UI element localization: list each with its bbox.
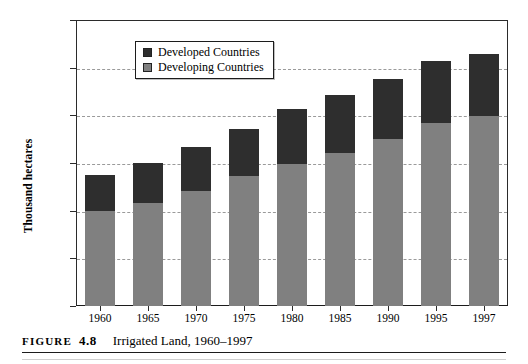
bar-segment-developing <box>229 176 259 306</box>
figure-caption: FIGURE 4.8 Irrigated Land, 1960–1997 <box>22 333 506 349</box>
legend-label-developed: Developed Countries <box>158 45 260 60</box>
bar-group <box>181 147 211 306</box>
bar-group <box>325 95 355 306</box>
x-tick-mark <box>292 306 293 311</box>
bar-group <box>469 54 499 306</box>
bar-segment-developed <box>181 147 211 191</box>
bar-segment-developed <box>373 79 403 139</box>
legend-item-developing: Developing Countries <box>143 60 264 75</box>
bar-group <box>277 109 307 306</box>
bar-segment-developed <box>133 163 163 203</box>
caption-title: Irrigated Land, 1960–1997 <box>113 333 253 349</box>
caption-rule-secondary <box>22 359 506 360</box>
bar-group <box>85 175 115 306</box>
bar-group <box>373 79 403 306</box>
legend-swatch-developing <box>143 63 152 72</box>
caption-rule <box>22 352 506 353</box>
legend-label-developing: Developing Countries <box>158 60 264 75</box>
legend-item-developed: Developed Countries <box>143 45 264 60</box>
bar-segment-developed <box>277 109 307 164</box>
x-tick-mark <box>340 306 341 311</box>
chart-legend: Developed Countries Developing Countries <box>135 41 274 79</box>
y-axis-title: Thousand hectares <box>22 96 34 276</box>
bar-group <box>229 129 259 306</box>
bar-segment-developed <box>469 54 499 116</box>
bar-segment-developed <box>421 61 451 123</box>
bar-segment-developing <box>325 153 355 306</box>
y-tick-mark <box>70 306 76 307</box>
x-tick-mark <box>388 306 389 311</box>
bar-segment-developing <box>277 164 307 306</box>
bar-segment-developed <box>325 95 355 153</box>
x-tick-mark <box>148 306 149 311</box>
x-tick-mark <box>436 306 437 311</box>
x-tick-mark <box>244 306 245 311</box>
x-tick-label: 1997 <box>454 312 514 324</box>
bar-segment-developed <box>85 175 115 210</box>
bar-segment-developing <box>181 191 211 306</box>
bar-group <box>421 61 451 306</box>
x-tick-mark <box>100 306 101 311</box>
caption-figure-number: 4.8 <box>79 333 97 349</box>
bar-segment-developed <box>229 129 259 177</box>
x-tick-mark <box>196 306 197 311</box>
caption-figure-word: FIGURE <box>22 335 72 347</box>
bar-segment-developing <box>85 211 115 306</box>
legend-swatch-developed <box>143 48 152 57</box>
bar-segment-developing <box>373 139 403 306</box>
bar-segment-developing <box>469 116 499 306</box>
x-tick-mark <box>484 306 485 311</box>
bar-segment-developing <box>133 203 163 306</box>
figure-container: Thousand hectares 0500001000001500002000… <box>0 0 528 364</box>
bar-segment-developing <box>421 123 451 306</box>
bar-group <box>133 163 163 306</box>
